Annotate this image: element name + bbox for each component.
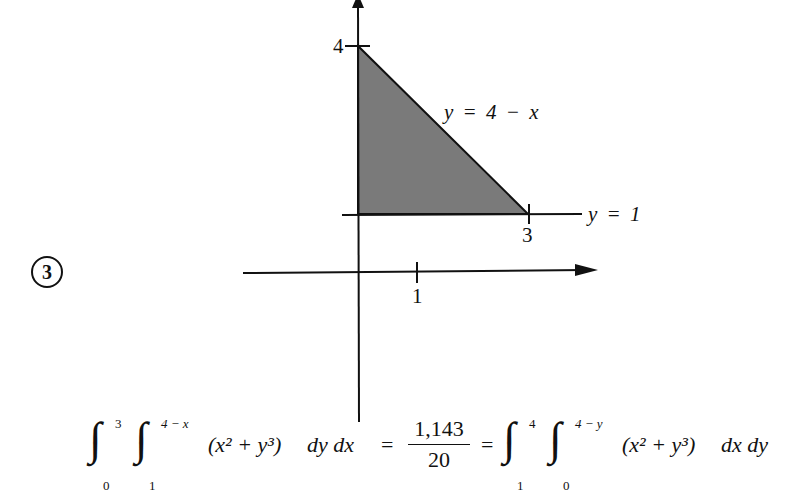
x-axis-arrow-icon	[575, 264, 598, 276]
shaded-region	[358, 46, 528, 214]
y-axis-arrow-icon	[352, 0, 364, 8]
rhs-inner-upper: 4 − y	[575, 416, 603, 432]
problem-number: 3	[42, 261, 52, 283]
line-y-equals-1	[342, 214, 582, 215]
equals-sign: =	[481, 432, 493, 458]
lhs-differentials: dy dx	[307, 432, 354, 458]
rhs-differentials: dx dy	[721, 432, 768, 458]
integral-sign-icon: ∫	[549, 416, 562, 462]
rhs-outer-lower: 1	[517, 478, 524, 492]
equals-sign: =	[381, 432, 393, 458]
integral-sign-icon: ∫	[503, 416, 516, 462]
value-denominator: 20	[408, 445, 470, 473]
lhs-outer-upper: 3	[115, 416, 122, 432]
value-numerator: 1,143	[408, 416, 470, 445]
integral-equation: ∫ 3 0 ∫ 4 − x 1 (x² + y³) dy dx = 1,143 …	[95, 408, 795, 492]
lhs-inner-upper: 4 − x	[161, 416, 189, 432]
tick-label-3: 3	[522, 223, 533, 248]
rhs-integrand: (x² + y³)	[622, 432, 695, 458]
value-fraction: 1,143 20	[408, 416, 470, 473]
rhs-outer-upper: 4	[529, 416, 536, 432]
y-axis	[358, 4, 359, 422]
lhs-outer-lower: 0	[103, 478, 110, 492]
y-tick-label: 4	[333, 34, 344, 59]
lhs-inner-lower: 1	[149, 478, 156, 492]
rhs-inner-lower: 0	[563, 478, 570, 492]
hypotenuse-label: y = 4 − x	[444, 100, 540, 125]
lhs-integrand: (x² + y³)	[208, 432, 281, 458]
horizontal-line-label: y = 1	[588, 202, 643, 227]
integral-sign-icon: ∫	[89, 416, 102, 462]
x-axis	[243, 270, 585, 273]
tick-label-1: 1	[412, 284, 423, 309]
integral-sign-icon: ∫	[135, 416, 148, 462]
problem-number-badge: 3	[31, 256, 63, 288]
